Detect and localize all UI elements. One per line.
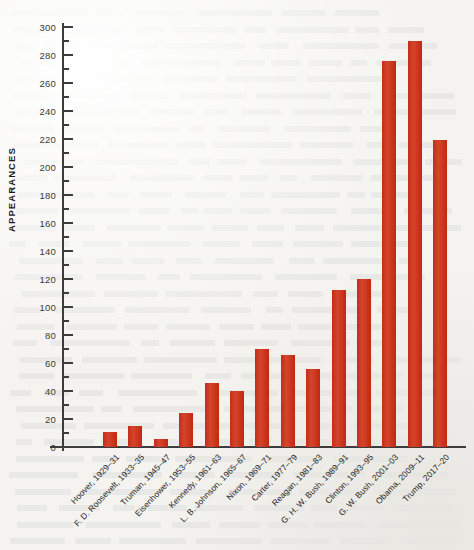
x-tick-label: Trump, 2017–20	[401, 452, 452, 504]
y-axis-title: APPEARANCES	[6, 147, 17, 232]
bar	[128, 426, 142, 447]
y-tick-major: 20	[62, 418, 73, 420]
y-tick-label: 260	[40, 78, 56, 89]
x-tick-label-text: Trump, 2017–20	[401, 452, 452, 504]
y-tick-label: 140	[40, 246, 56, 257]
y-tick-label: 60	[45, 358, 56, 369]
y-tick-label: 20	[45, 414, 56, 425]
y-tick-major: 220	[62, 138, 73, 140]
y-tick-minor	[62, 376, 69, 378]
y-tick-major: 260	[62, 82, 73, 84]
bar	[205, 383, 219, 447]
y-tick-major: 280	[62, 54, 73, 56]
plot-area: 0204060801001201401601802002202402602803…	[62, 27, 458, 447]
y-tick-label: 280	[40, 50, 56, 61]
y-tick-label: 180	[40, 190, 56, 201]
bar	[306, 369, 320, 447]
y-tick-major: 200	[62, 166, 73, 168]
y-tick-minor	[62, 348, 69, 350]
y-tick-minor	[62, 40, 69, 42]
y-tick-minor	[62, 152, 69, 154]
bar	[255, 349, 269, 447]
y-tick-label: 100	[40, 302, 56, 313]
y-tick-major: 0	[62, 446, 73, 448]
y-tick-major: 100	[62, 306, 73, 308]
bar	[382, 61, 396, 447]
bar	[408, 41, 422, 447]
y-tick-major: 140	[62, 250, 73, 252]
bar-chart-figure: APPEARANCES 0204060801001201401601802002…	[0, 0, 474, 550]
y-tick-minor	[62, 68, 69, 70]
y-tick-label: 40	[45, 386, 56, 397]
y-tick-major: 160	[62, 222, 73, 224]
bar	[433, 140, 447, 447]
y-tick-minor	[62, 320, 69, 322]
bar	[357, 279, 371, 447]
y-tick-major: 120	[62, 278, 73, 280]
y-tick-minor	[62, 96, 69, 98]
y-tick-minor	[62, 264, 69, 266]
y-tick-label: 80	[45, 330, 56, 341]
y-tick-label: 120	[40, 274, 56, 285]
y-tick-label: 240	[40, 106, 56, 117]
y-tick-minor	[62, 432, 69, 434]
y-tick-major: 180	[62, 194, 73, 196]
bar	[103, 432, 117, 447]
bar	[332, 290, 346, 447]
y-tick-major: 60	[62, 362, 73, 364]
bar	[281, 355, 295, 447]
y-tick-minor	[62, 124, 69, 126]
y-tick-label: 220	[40, 134, 56, 145]
y-tick-label: 0	[51, 442, 56, 453]
y-tick-major: 40	[62, 390, 73, 392]
y-tick-minor	[62, 404, 69, 406]
bar	[179, 413, 193, 447]
y-tick-label: 300	[40, 22, 56, 33]
y-tick-major: 300	[62, 26, 73, 28]
y-tick-label: 200	[40, 162, 56, 173]
y-tick-label: 160	[40, 218, 56, 229]
bar	[230, 391, 244, 447]
y-tick-major: 240	[62, 110, 73, 112]
bar	[154, 439, 168, 447]
y-tick-minor	[62, 208, 69, 210]
y-tick-minor	[62, 236, 69, 238]
y-tick-minor	[62, 292, 69, 294]
y-tick-minor	[62, 180, 69, 182]
y-tick-major: 80	[62, 334, 73, 336]
